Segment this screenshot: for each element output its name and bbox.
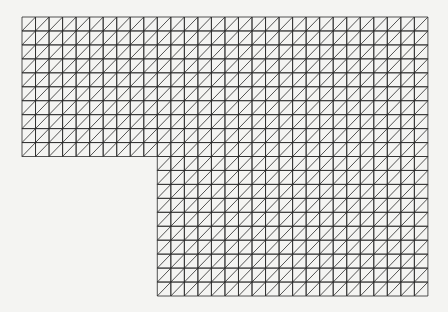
l-shaped-triangular-mesh <box>0 0 448 312</box>
mesh-lines <box>22 17 428 296</box>
mesh-triangles <box>22 17 428 296</box>
